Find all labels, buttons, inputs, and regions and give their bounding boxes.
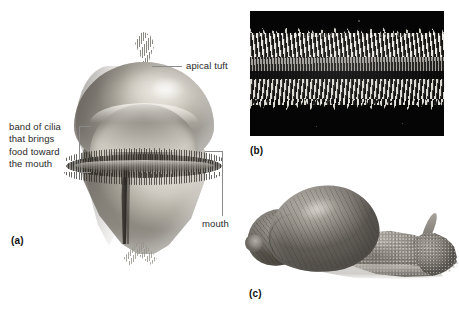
micrograph-speck [316, 126, 317, 127]
band-of-cilia-bracket-stem [79, 126, 80, 173]
larva-upper-dome-highlight [144, 72, 192, 106]
snail-image [245, 182, 451, 294]
panel-tag-a: (a) [11, 235, 24, 246]
band-of-cilia-label: band of cilia that brings food toward th… [9, 121, 61, 171]
apical-tuft-leader-line [152, 66, 182, 67]
veliger-larva-illustration [60, 48, 230, 263]
micrograph-speck [402, 123, 403, 124]
band-of-cilia-bracket-bottom-arm [79, 172, 91, 173]
panel-tag-b: (b) [250, 145, 263, 156]
ciliary-band-core [74, 160, 214, 171]
micrograph-speck [358, 20, 360, 22]
mouth-leader-horizontal [205, 151, 223, 152]
radula-specimen-glow [250, 27, 444, 113]
band-of-cilia-bracket-top-arm [79, 126, 91, 127]
mouth-leader-vertical [222, 151, 223, 216]
mouth-label: mouth [202, 218, 229, 230]
radula-micrograph-panel [250, 11, 444, 136]
snail-photograph-panel [245, 182, 451, 294]
larva-drawing [60, 48, 230, 263]
panel-tag-c: (c) [249, 288, 262, 299]
radula-micrograph-image [250, 11, 444, 136]
apical-tuft-label: apical tuft [186, 60, 228, 72]
